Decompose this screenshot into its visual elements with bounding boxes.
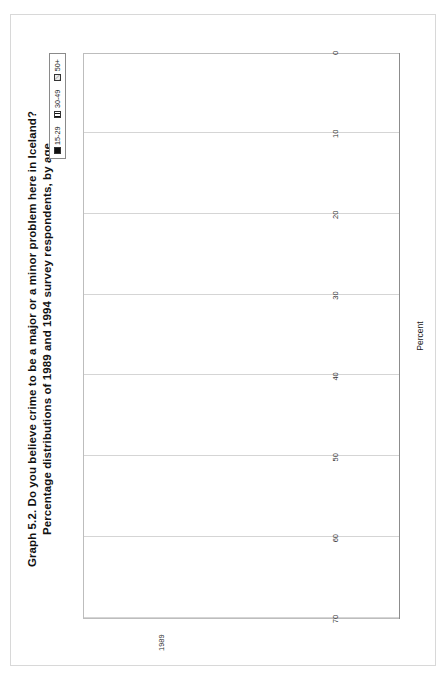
value-axis-baseline (399, 53, 400, 619)
figure-frame: Graph 5.2. Do you believe crime to be a … (10, 14, 436, 666)
tick-label-40: 40 (331, 372, 340, 380)
panel-year-label-1989: 1989 (157, 634, 166, 651)
tick-label-60: 60 (331, 534, 340, 542)
gridline-70 (84, 617, 400, 618)
legend-swatch-icon-50-plus (54, 74, 61, 81)
legend-swatch-icon-15-29 (54, 147, 61, 154)
legend-swatch-icon-30-49 (54, 111, 61, 118)
legend-label-30-49: 30-49 (53, 90, 62, 108)
legend-item-50-plus: 50+ (53, 59, 62, 81)
legend-item-15-29: 15-29 (53, 127, 62, 155)
value-axis-label: Percent (415, 53, 425, 619)
tick-label-70: 70 (331, 615, 340, 623)
tick-label-50: 50 (331, 453, 340, 461)
rotated-page-host: Graph 5.2. Do you believe crime to be a … (0, 0, 448, 678)
legend-item-30-49: 30-49 (53, 90, 62, 118)
gridline-30 (84, 294, 400, 295)
plot-area (83, 53, 399, 619)
gridline-20 (84, 213, 400, 214)
title-line-1: Graph 5.2. Do you believe crime to be a … (25, 13, 40, 665)
rotated-figure: Graph 5.2. Do you believe crime to be a … (0, 0, 448, 678)
tick-label-0: 0 (331, 51, 340, 55)
legend-label-15-29: 15-29 (53, 127, 62, 145)
gridline-10 (84, 132, 400, 133)
tick-label-20: 20 (331, 211, 340, 219)
legend-label-50-plus: 50+ (53, 59, 62, 71)
tick-label-10: 10 (331, 130, 340, 138)
gridline-40 (84, 374, 400, 375)
legend: 15-29 30-49 50+ (49, 53, 66, 159)
tick-label-30: 30 (331, 291, 340, 299)
gridline-60 (84, 536, 400, 537)
gridline-50 (84, 455, 400, 456)
